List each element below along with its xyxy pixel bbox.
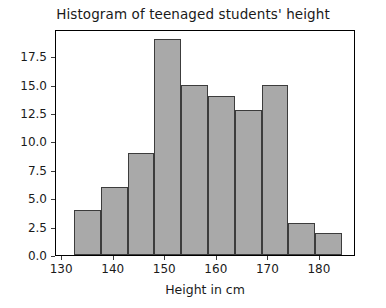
x-axis-tick-label: 170 [245,262,289,276]
y-axis-tick-label: 10.0 [7,135,47,149]
y-axis-tick-mark [51,256,55,257]
histogram-bar [128,153,155,255]
y-axis-tick-label: 2.5 [7,221,47,235]
histogram-bar [181,85,208,255]
plot-area [55,30,355,256]
histogram-bar [74,210,101,255]
histogram-bar [288,223,315,255]
y-axis-tick-label: 7.5 [7,164,47,178]
histogram-bar [208,96,235,255]
x-axis-tick-mark [164,256,165,260]
histogram-bar [235,110,262,255]
histogram-bar [262,85,289,255]
x-axis-label: Height in cm [55,282,355,297]
x-axis-tick-label: 150 [142,262,186,276]
y-axis-tick-label: 0.0 [7,249,47,263]
x-axis-tick-label: 130 [39,262,83,276]
histogram-bar [315,233,342,255]
x-axis-tick-label: 160 [194,262,238,276]
histogram-bars [56,31,354,255]
x-axis-tick-mark [113,256,114,260]
y-axis-tick-label: 5.0 [7,192,47,206]
chart-title: Histogram of teenaged students' height [0,6,386,22]
x-axis-tick-mark [61,256,62,260]
y-axis-tick-label: 15.0 [7,79,47,93]
x-axis-tick-label: 180 [297,262,341,276]
histogram-bar [154,39,181,255]
x-axis-tick-mark [216,256,217,260]
y-axis-tick-label: 12.5 [7,107,47,121]
y-axis-tick-label: 17.5 [7,50,47,64]
x-axis-tick-mark [267,256,268,260]
histogram-bar [101,187,128,255]
x-axis-tick-label: 140 [91,262,135,276]
histogram-figure: Histogram of teenaged students' height 0… [0,0,386,308]
x-axis-tick-mark [319,256,320,260]
